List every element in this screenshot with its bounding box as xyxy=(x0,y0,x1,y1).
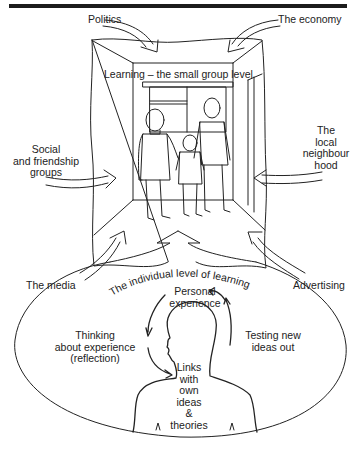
central-up-arrow xyxy=(110,231,256,262)
links-line-1: Links xyxy=(164,362,214,374)
links-line-3: own xyxy=(164,385,214,397)
window-frame xyxy=(150,87,226,132)
links-line-6: theories xyxy=(164,420,214,432)
neighbourhood-arrow xyxy=(254,170,322,186)
woman-figure xyxy=(138,109,178,220)
child-figure xyxy=(176,135,204,216)
label-small-group: Learning – the small group level xyxy=(104,69,253,81)
label-politics: Politics xyxy=(88,14,121,26)
label-media: The media xyxy=(26,280,76,292)
personal-line-1: Personal xyxy=(160,286,230,298)
label-social: Social and friendship groups xyxy=(10,144,82,179)
label-testing: Testing new ideas out xyxy=(238,330,308,353)
thinking-line-1: Thinking xyxy=(50,330,140,342)
social-line-1: Social xyxy=(10,144,82,156)
label-neighbourhood: The local neighbour hood xyxy=(296,125,356,171)
door xyxy=(248,74,262,212)
label-thinking: Thinking about experience (reflection) xyxy=(50,330,140,365)
testing-line-2: ideas out xyxy=(238,342,308,354)
neighbourhood-line-3: neighbour xyxy=(296,148,356,160)
room-floor-right xyxy=(233,200,265,230)
advertising-arrow xyxy=(248,232,305,279)
man-figure xyxy=(194,98,230,212)
label-links: Links with own ideas & theories xyxy=(164,362,214,431)
personal-line-2: experience xyxy=(160,298,230,310)
neighbourhood-line-1: The xyxy=(296,125,356,137)
label-personal-experience: Personal experience xyxy=(160,286,230,309)
social-line-3: groups xyxy=(10,167,82,179)
testing-line-1: Testing new xyxy=(238,330,308,342)
links-line-5: & xyxy=(164,408,214,420)
label-advertising: Advertising xyxy=(293,280,345,292)
media-arrow xyxy=(80,231,126,280)
label-economy: The economy xyxy=(278,14,342,26)
room-floor-left xyxy=(94,200,133,235)
neighbourhood-line-4: hood xyxy=(296,160,356,172)
window-sill xyxy=(143,82,233,87)
room-corner-tr xyxy=(233,41,262,63)
thinking-line-3: (reflection) xyxy=(50,353,140,365)
